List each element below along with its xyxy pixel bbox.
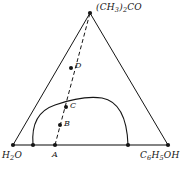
baseline-marker-binodal-right	[126, 143, 130, 147]
baseline-marker-binodal-left	[31, 143, 35, 147]
point-marker-b	[58, 123, 62, 127]
vertex-label-water: H2O	[2, 150, 22, 160]
point-marker-c	[64, 105, 68, 109]
diagram-canvas	[0, 0, 192, 170]
ternary-phase-diagram-figure: (CH3)2CO H2O C6H5OH D C B A	[0, 0, 192, 170]
vertex-label-phenol: C6H5OH	[140, 150, 179, 160]
binodal-curve	[33, 97, 128, 145]
point-marker-d	[69, 66, 73, 70]
point-label-c: C	[70, 101, 76, 110]
point-marker-a	[53, 143, 57, 147]
triangle-left-edge	[13, 13, 90, 145]
vertex-label-acetone: (CH3)2CO	[96, 2, 142, 12]
point-label-a: A	[52, 150, 58, 159]
baseline-marker-phenol	[166, 143, 170, 147]
point-label-d: D	[75, 61, 81, 70]
baseline-marker-h2o	[11, 143, 15, 147]
triangle-right-edge	[90, 13, 168, 145]
apex-marker-acetone	[88, 11, 92, 15]
point-label-b: B	[64, 119, 70, 128]
